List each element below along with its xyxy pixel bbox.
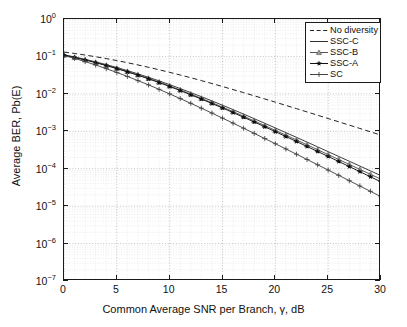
legend-item-ssc-a[interactable]: SSC-A bbox=[308, 58, 378, 69]
x-tick bbox=[169, 18, 170, 23]
y-tick bbox=[375, 168, 380, 169]
y-tick bbox=[375, 130, 380, 131]
x-tick bbox=[327, 275, 328, 280]
legend: No diversitySSC-CSSC-BSSC-ASC bbox=[305, 22, 381, 83]
y-tick-label: 10−7 bbox=[22, 273, 56, 287]
y-tick bbox=[63, 18, 68, 19]
x-tick bbox=[380, 275, 381, 280]
legend-item-sc[interactable]: SC bbox=[308, 69, 378, 80]
y-tick bbox=[63, 168, 68, 169]
x-tick-label: 10 bbox=[149, 283, 189, 295]
legend-label: SC bbox=[330, 69, 343, 80]
x-axis-title: Common Average SNR per Branch, γ, dB bbox=[0, 303, 407, 315]
triangle-marker-swatch bbox=[308, 47, 330, 58]
y-tick bbox=[63, 243, 68, 244]
y-tick bbox=[63, 55, 68, 56]
y-tick-label: 10−6 bbox=[22, 236, 56, 250]
legend-item-ssc-b[interactable]: SSC-B bbox=[308, 47, 378, 58]
legend-label: SSC-C bbox=[330, 36, 359, 47]
y-tick-label: 10−5 bbox=[22, 198, 56, 212]
x-tick bbox=[116, 18, 117, 23]
y-tick bbox=[63, 93, 68, 94]
y-tick-label: 10−3 bbox=[22, 123, 56, 137]
solid-line-swatch bbox=[308, 36, 330, 47]
y-tick bbox=[63, 205, 68, 206]
x-tick-label: 20 bbox=[254, 283, 294, 295]
star-marker-swatch bbox=[308, 58, 330, 69]
x-tick-label: 5 bbox=[96, 283, 136, 295]
y-tick bbox=[375, 280, 380, 281]
legend-label: No diversity bbox=[330, 25, 378, 36]
y-tick bbox=[375, 93, 380, 94]
y-tick-label: 10−1 bbox=[22, 48, 56, 62]
x-tick bbox=[169, 275, 170, 280]
plus-marker-swatch bbox=[308, 69, 330, 80]
x-tick bbox=[274, 18, 275, 23]
dashed-line-swatch bbox=[308, 25, 330, 36]
y-tick bbox=[375, 243, 380, 244]
x-tick bbox=[274, 275, 275, 280]
x-tick-label: 30 bbox=[360, 283, 400, 295]
legend-item-ssc-c[interactable]: SSC-C bbox=[308, 36, 378, 47]
x-tick bbox=[116, 275, 117, 280]
legend-label: SSC-B bbox=[330, 47, 358, 58]
legend-label: SSC-A bbox=[330, 58, 358, 69]
y-tick-label: 10−2 bbox=[22, 86, 56, 100]
y-tick bbox=[375, 205, 380, 206]
x-tick bbox=[222, 18, 223, 23]
x-tick-label: 15 bbox=[202, 283, 242, 295]
y-tick bbox=[63, 280, 68, 281]
y-tick-label: 100 bbox=[22, 11, 56, 25]
figure: 051015202530 10010−110−210−310−410−510−6… bbox=[0, 0, 407, 327]
y-tick bbox=[375, 18, 380, 19]
y-tick-label: 10−4 bbox=[22, 161, 56, 175]
legend-item-no-diversity[interactable]: No diversity bbox=[308, 25, 378, 36]
x-tick bbox=[222, 275, 223, 280]
y-axis-title: Average BER, Pb(E) bbox=[10, 36, 22, 236]
y-tick bbox=[63, 130, 68, 131]
x-tick-label: 25 bbox=[307, 283, 347, 295]
